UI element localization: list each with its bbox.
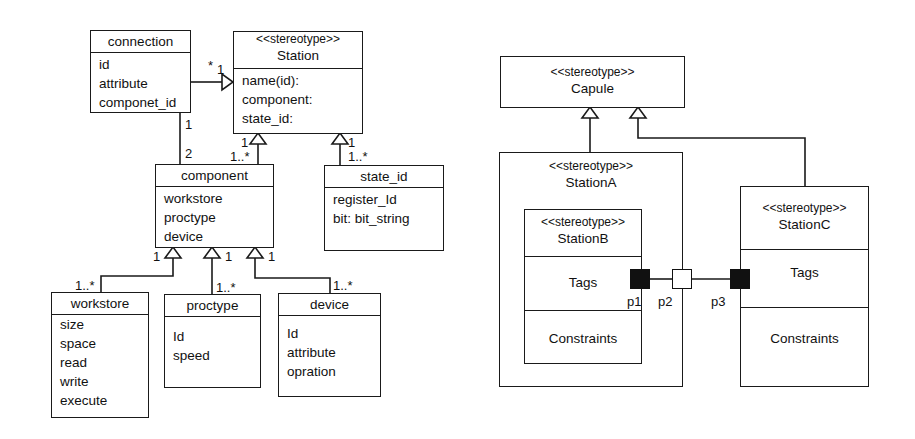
attribute: space bbox=[60, 334, 148, 353]
stereotype-label: <<stereotype>> bbox=[234, 32, 362, 47]
class-name: Capule bbox=[501, 80, 684, 97]
constraints-compartment: Constraints bbox=[741, 308, 868, 386]
attribute: size bbox=[60, 315, 148, 334]
port-label-p3: p3 bbox=[711, 295, 725, 308]
attribute: bit: bit_string bbox=[333, 209, 443, 228]
attribute: id bbox=[99, 55, 190, 74]
class-name: device bbox=[279, 294, 380, 316]
port-label-p1: p1 bbox=[627, 295, 641, 308]
multiplicity-label: 1 bbox=[225, 250, 232, 263]
attribute-list: Id attribute opration bbox=[279, 316, 380, 381]
attribute: attribute bbox=[287, 343, 380, 362]
attribute-list: register_Id bit: bit_string bbox=[325, 188, 443, 228]
multiplicity-label: 1..* bbox=[348, 150, 368, 163]
attribute: device bbox=[164, 227, 273, 246]
multiplicity-label: 1 bbox=[153, 250, 160, 263]
class-proctype[interactable]: proctype Id speed bbox=[164, 294, 261, 388]
port-p3[interactable] bbox=[730, 269, 750, 289]
attribute: attribute bbox=[99, 74, 190, 93]
multiplicity-label: 1 bbox=[241, 136, 248, 149]
multiplicity-label: 1..* bbox=[230, 150, 250, 163]
attribute: state_id: bbox=[242, 109, 362, 128]
port-label-p2: p2 bbox=[658, 295, 672, 308]
class-name: state_id bbox=[325, 166, 443, 188]
class-header: <<stereotype>> StationC bbox=[741, 187, 868, 250]
multiplicity-label: * bbox=[208, 59, 213, 72]
attribute: name(id): bbox=[242, 71, 362, 90]
attribute: speed bbox=[173, 346, 260, 365]
attribute: opration bbox=[287, 362, 380, 381]
class-component[interactable]: component workstore proctype device bbox=[155, 164, 274, 248]
port-p2[interactable] bbox=[672, 269, 692, 289]
port-p1[interactable] bbox=[630, 269, 650, 289]
multiplicity-label: 1 bbox=[348, 136, 355, 149]
attribute-list: size space read write execute bbox=[52, 315, 148, 410]
stereotype-label: <<stereotype>> bbox=[501, 65, 684, 80]
class-device[interactable]: device Id attribute opration bbox=[278, 293, 381, 397]
attribute: write bbox=[60, 372, 148, 391]
multiplicity-label: 1..* bbox=[333, 279, 353, 292]
attribute: Id bbox=[173, 327, 260, 346]
class-workstore[interactable]: workstore size space read write execute bbox=[51, 292, 149, 418]
multiplicity-label: 1 bbox=[268, 250, 275, 263]
attribute-list: Id speed bbox=[165, 317, 260, 365]
class-name: component bbox=[156, 165, 273, 187]
constraints-compartment: Constraints bbox=[525, 311, 641, 363]
tags-compartment: Tags bbox=[741, 250, 868, 308]
multiplicity-label: 2 bbox=[185, 147, 192, 160]
class-name: workstore bbox=[52, 293, 148, 315]
class-header: <<stereotype>> Station bbox=[234, 32, 362, 69]
attribute: workstore bbox=[164, 189, 273, 208]
class-station[interactable]: <<stereotype>> Station name(id): compone… bbox=[233, 31, 363, 134]
class-header: <<stereotype>> StationB bbox=[525, 210, 641, 257]
stereotype-label: <<stereotype>> bbox=[741, 201, 868, 216]
attribute-list: name(id): component: state_id: bbox=[234, 69, 362, 128]
attribute-list: id attribute componet_id bbox=[91, 53, 190, 112]
attribute: read bbox=[60, 353, 148, 372]
attribute: component: bbox=[242, 90, 362, 109]
class-connection[interactable]: connection id attribute componet_id bbox=[90, 30, 191, 113]
class-name: Station bbox=[234, 47, 362, 64]
attribute-list: workstore proctype device bbox=[156, 187, 273, 246]
class-station-c[interactable]: <<stereotype>> StationC Tags Constraints bbox=[740, 186, 869, 387]
tags-compartment: Tags bbox=[525, 257, 641, 311]
class-name: connection bbox=[91, 31, 190, 53]
attribute: proctype bbox=[164, 208, 273, 227]
stereotype-label: <<stereotype>> bbox=[525, 215, 641, 230]
attribute: register_Id bbox=[333, 190, 443, 209]
multiplicity-label: 1..* bbox=[216, 281, 236, 294]
multiplicity-label: 1 bbox=[217, 63, 224, 76]
multiplicity-label: 1 bbox=[185, 118, 192, 131]
class-name: StationA bbox=[500, 174, 682, 191]
attribute: componet_id bbox=[99, 93, 190, 112]
class-capule[interactable]: <<stereotype>> Capule bbox=[500, 56, 685, 108]
class-state-id[interactable]: state_id register_Id bit: bit_string bbox=[324, 165, 444, 251]
class-name: StationC bbox=[741, 216, 868, 233]
class-name: proctype bbox=[165, 295, 260, 317]
multiplicity-label: 1..* bbox=[75, 279, 95, 292]
class-station-b[interactable]: <<stereotype>> StationB Tags Constraints bbox=[524, 209, 642, 364]
attribute: execute bbox=[60, 391, 148, 410]
attribute: Id bbox=[287, 324, 380, 343]
stereotype-label: <<stereotype>> bbox=[500, 159, 682, 174]
class-name: StationB bbox=[525, 230, 641, 247]
